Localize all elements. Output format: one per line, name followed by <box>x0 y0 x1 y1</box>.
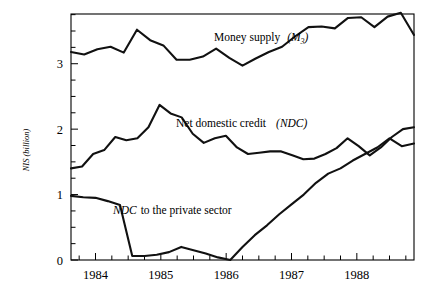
x-tick-label: 1988 <box>344 268 369 282</box>
x-tick-label: 1986 <box>214 268 239 282</box>
series-line-net-domestic-credit <box>71 105 414 168</box>
y-tick-label: 0 <box>57 254 63 268</box>
x-axis-tick-labels: 19841985198619871988 <box>83 268 369 282</box>
x-tick-label: 1987 <box>279 268 304 282</box>
y-tick-label: 2 <box>57 123 63 137</box>
line-chart: 0123 19841985198619871988 NIS (billion) … <box>0 0 440 300</box>
annotation-money-supply-text: Money supply(M3) <box>214 31 309 46</box>
annotation-net-domestic-credit: Net domestic credit(NDC) <box>176 117 308 130</box>
series-line-ndc-private-sector <box>71 138 414 260</box>
y-tick-label: 3 <box>57 57 63 71</box>
annotation-private-sector-text: NDCto the private sector <box>112 204 232 217</box>
y-axis-title-text: NIS (billion) <box>21 128 31 172</box>
y-axis-tick-labels: 0123 <box>57 57 63 267</box>
y-tick-label: 1 <box>57 188 63 202</box>
x-tick-label: 1984 <box>83 268 109 282</box>
annotation-money-supply: Money supply(M3) <box>214 31 309 46</box>
annotation-private-sector: NDCto the private sector <box>112 204 232 217</box>
annotation-ndc-text: Net domestic credit(NDC) <box>176 117 308 130</box>
chart-container: 0123 19841985198619871988 NIS (billion) … <box>0 0 440 300</box>
x-axis-ticks <box>79 253 406 260</box>
series-group <box>71 13 414 260</box>
y-axis-title: NIS (billion) <box>21 128 31 172</box>
x-tick-label: 1985 <box>148 268 173 282</box>
